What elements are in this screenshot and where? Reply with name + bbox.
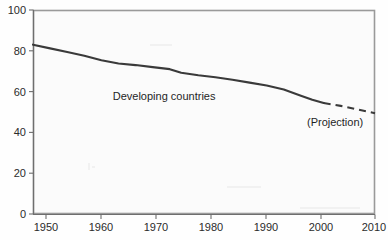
y-axis-label-100: 100	[8, 4, 26, 16]
x-axis-label-2010: 2010	[362, 221, 386, 233]
series-annotation-label: Developing countries	[113, 90, 216, 102]
x-axis-label-1980: 1980	[199, 221, 223, 233]
y-axis-label-40: 40	[14, 126, 26, 138]
x-axis-label-1990: 1990	[254, 221, 278, 233]
y-axis-label-60: 60	[14, 86, 26, 98]
x-axis-label-1970: 1970	[144, 221, 168, 233]
y-axis-label-20: 20	[14, 167, 26, 179]
projection-annotation-label: (Projection)	[307, 116, 363, 128]
y-axis-label-80: 80	[14, 45, 26, 57]
chart-container: 0 20 40 60 80 100 1950 1960 1970 1980 19…	[0, 0, 388, 240]
y-axis-label-0: 0	[20, 208, 26, 220]
x-axis-label-1950: 1950	[34, 221, 58, 233]
plot-area-background	[33, 10, 375, 214]
x-axis-label-1960: 1960	[89, 221, 113, 233]
line-chart: 0 20 40 60 80 100 1950 1960 1970 1980 19…	[0, 0, 388, 240]
x-axis-label-2000: 2000	[309, 221, 333, 233]
